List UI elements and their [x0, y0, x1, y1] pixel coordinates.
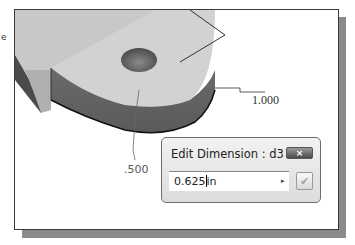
close-icon: × [296, 149, 304, 158]
dimension-1000[interactable]: 1.000 [252, 93, 279, 108]
edit-dimension-dialog: Edit Dimension : d3 × 0.625in ▸ ✔ [161, 137, 321, 203]
cad-viewport[interactable]: 1.000 .500 Edit Dimension : d3 × 0.625in… [14, 9, 339, 230]
value-unit: in [207, 175, 217, 188]
accept-button[interactable]: ✔ [296, 172, 313, 190]
checkmark-icon: ✔ [300, 175, 309, 188]
close-button[interactable]: × [286, 147, 313, 159]
value-number: 0.625 [174, 175, 206, 188]
dimension-value-input[interactable]: 0.625in ▸ [169, 171, 289, 191]
value-text: 0.625in [174, 175, 217, 188]
arrow-right-icon[interactable]: ▸ [281, 177, 285, 185]
text-fragment: e [1, 32, 7, 42]
dimension-500[interactable]: .500 [124, 163, 149, 176]
dialog-title: Edit Dimension : d3 [171, 147, 284, 161]
